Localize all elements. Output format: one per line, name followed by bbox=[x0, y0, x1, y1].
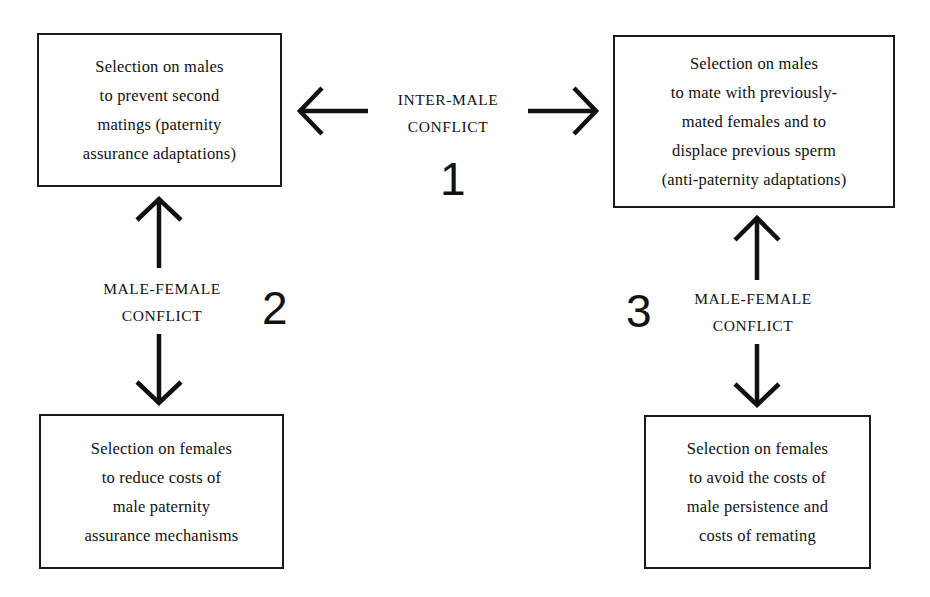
conflict-label-male-female-right: MALE-FEMALE CONFLICT bbox=[673, 285, 833, 339]
box-text-line: Selection on males bbox=[662, 49, 847, 78]
box-text-line: to mate with previously- bbox=[662, 78, 847, 107]
box-text-line: Selection on females bbox=[85, 434, 239, 463]
arrow-down-icon bbox=[137, 334, 181, 403]
box-text-line: Selection on males bbox=[83, 52, 236, 81]
box-text-line: displace previous sperm bbox=[662, 136, 847, 165]
arrow-down-icon bbox=[735, 344, 779, 405]
conflict-number-3: 3 bbox=[626, 288, 652, 334]
box-female-reduce-costs: Selection on females to reduce costs of … bbox=[39, 414, 284, 569]
conflict-label-line: CONFLICT bbox=[368, 113, 528, 140]
box-paternity-assurance: Selection on males to prevent second mat… bbox=[37, 33, 282, 187]
conflict-label-line: CONFLICT bbox=[673, 312, 833, 339]
box-text-line: to avoid the costs of bbox=[687, 463, 828, 492]
box-text-line: Selection on females bbox=[687, 434, 828, 463]
box-anti-paternity: Selection on males to mate with previous… bbox=[613, 35, 895, 208]
box-text-line: mated females and to bbox=[662, 107, 847, 136]
conflict-label-male-female-left: MALE-FEMALE CONFLICT bbox=[82, 275, 242, 329]
conflict-label-line: MALE-FEMALE bbox=[82, 275, 242, 302]
conflict-label-line: CONFLICT bbox=[82, 302, 242, 329]
box-text-line: (anti-paternity adaptations) bbox=[662, 165, 847, 194]
conflict-label-inter-male: INTER-MALE CONFLICT bbox=[368, 86, 528, 140]
arrow-right-icon bbox=[528, 88, 596, 134]
conflict-number-1: 1 bbox=[440, 156, 466, 202]
box-text-line: to prevent second bbox=[83, 81, 236, 110]
arrow-up-icon bbox=[137, 199, 181, 268]
box-text-line: assurance adaptations) bbox=[83, 139, 236, 168]
box-female-avoid-costs: Selection on females to avoid the costs … bbox=[644, 415, 871, 569]
arrow-left-icon bbox=[300, 88, 368, 134]
conflict-number-2: 2 bbox=[262, 285, 288, 331]
conflict-label-line: INTER-MALE bbox=[368, 86, 528, 113]
box-text-line: male persistence and bbox=[687, 492, 828, 521]
box-text-line: costs of remating bbox=[687, 521, 828, 550]
box-text-line: to reduce costs of bbox=[85, 463, 239, 492]
arrow-up-icon bbox=[735, 218, 779, 280]
box-text-line: assurance mechanisms bbox=[85, 521, 239, 550]
conflict-label-line: MALE-FEMALE bbox=[673, 285, 833, 312]
box-text-line: male paternity bbox=[85, 492, 239, 521]
box-text-line: matings (paternity bbox=[83, 110, 236, 139]
